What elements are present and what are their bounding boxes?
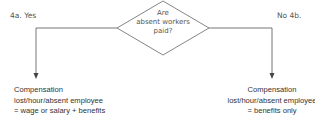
question-line: Are — [117, 9, 209, 18]
result-line: = wage or salary + benefits — [14, 106, 105, 117]
decision-question: Are absent workers paid? — [117, 9, 209, 36]
no-connector — [209, 28, 272, 74]
question-line: absent workers — [117, 18, 209, 27]
no-arrowhead-icon — [270, 73, 275, 79]
no-branch-label: No 4b. — [277, 11, 302, 20]
yes-connector — [36, 28, 117, 74]
result-line: Compensation — [14, 85, 105, 96]
yes-arrowhead-icon — [34, 73, 39, 79]
result-line: Compensation — [212, 85, 315, 96]
no-result: Compensation lost/hour/absent employee =… — [212, 85, 315, 117]
result-line: lost/hour/absent employee — [14, 96, 105, 107]
result-line: = benefits only — [212, 106, 315, 117]
question-line: paid? — [117, 27, 209, 36]
yes-branch-label: 4a. Yes — [10, 11, 36, 20]
result-line: lost/hour/absent employee — [212, 96, 315, 107]
yes-result: Compensation lost/hour/absent employee =… — [14, 85, 105, 117]
